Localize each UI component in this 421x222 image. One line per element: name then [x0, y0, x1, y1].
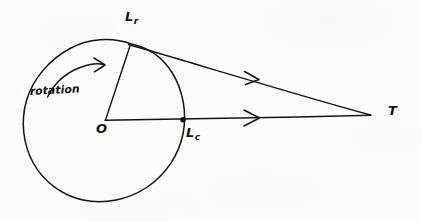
rotation-annotation: rotation	[29, 83, 80, 97]
diagram-canvas: Lr Lc O T rotation	[0, 0, 421, 222]
radius-line-O-Lr	[106, 46, 131, 120]
point-T-label: T	[388, 104, 397, 117]
geometry-figure	[0, 0, 421, 222]
sight-line-Lr-to-T	[129, 45, 371, 116]
center-point-label: O	[96, 122, 107, 135]
point-Lc-label: Lc	[186, 126, 200, 142]
sight-line-O-to-T	[105, 115, 371, 120]
point-marker-Lc	[180, 117, 186, 123]
point-Lc-subscript: c	[195, 133, 200, 142]
point-Lr-subscript: r	[134, 17, 138, 26]
point-Lr-base: L	[125, 9, 133, 24]
point-Lr-label: Lr	[125, 10, 138, 26]
point-Lc-base: L	[186, 125, 194, 140]
